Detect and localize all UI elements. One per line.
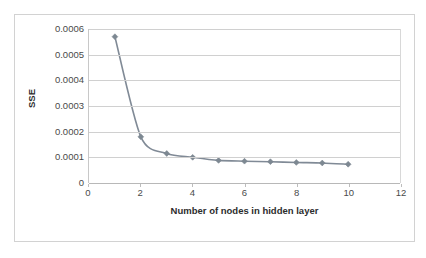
x-axis-tick-mark	[140, 184, 141, 187]
data-point-marker	[345, 161, 351, 167]
x-axis-tick-mark	[401, 184, 402, 187]
y-axis-tick-label: 0.0005	[22, 50, 84, 60]
data-point-marker	[164, 151, 170, 157]
y-axis-title: SSE	[26, 69, 37, 129]
x-axis-tick-label: 2	[120, 187, 160, 199]
x-axis-tick-mark	[297, 184, 298, 187]
data-point-marker	[112, 34, 118, 40]
gridline	[89, 55, 400, 56]
x-axis-title: Number of nodes in hidden layer	[88, 205, 401, 216]
plot-area	[88, 29, 401, 183]
x-axis-tick-mark	[88, 184, 89, 187]
gridline	[89, 80, 400, 81]
data-point-marker	[293, 160, 299, 166]
x-axis-tick-mark	[192, 184, 193, 187]
x-axis-tick-mark	[245, 184, 246, 187]
x-axis-tick-label: 0	[68, 187, 108, 199]
gridline	[89, 157, 400, 158]
x-axis-tick-label: 6	[225, 187, 265, 199]
x-axis-tick-label: 4	[172, 187, 212, 199]
gridline	[89, 106, 400, 107]
chart-container: 00.00010.00020.00030.00040.00050.0006 02…	[14, 14, 415, 242]
x-axis-tick-label: 8	[277, 187, 317, 199]
data-point-marker	[138, 134, 144, 140]
x-axis-tick-labels: 024681012	[88, 187, 401, 201]
x-axis-tick-mark	[349, 184, 350, 187]
gridline	[89, 29, 400, 30]
x-axis-tick-label: 12	[381, 187, 421, 199]
x-axis-tick-label: 10	[329, 187, 369, 199]
data-point-marker	[268, 159, 274, 165]
y-axis-tick-label: 0.0006	[22, 24, 84, 34]
data-point-marker	[319, 160, 325, 166]
data-point-marker	[242, 158, 248, 164]
gridline	[89, 132, 400, 133]
data-point-marker	[216, 158, 222, 164]
y-axis-tick-label: 0.0001	[22, 152, 84, 162]
